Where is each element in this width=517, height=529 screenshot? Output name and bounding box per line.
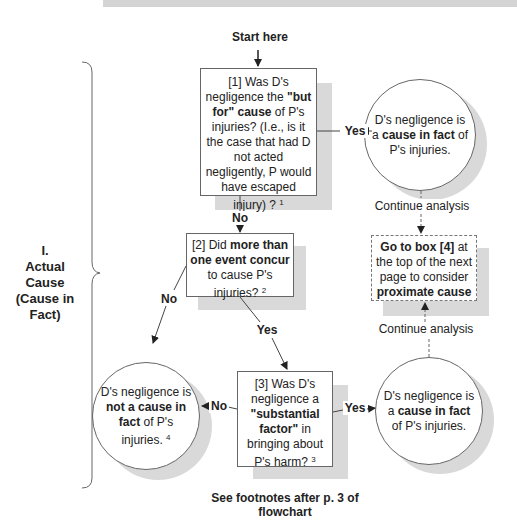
- box4-bold-2: proximate cause: [377, 285, 472, 299]
- circle-right-text-2: of P's injuries.: [392, 419, 466, 433]
- section-label: I. Actual Cause (Cause in Fact): [8, 243, 82, 323]
- footer-line-2: flowchart: [200, 505, 370, 519]
- edge-label-no-box2: No: [158, 292, 180, 306]
- edge-label-continue-bottom: Continue analysis: [377, 322, 475, 336]
- outcome-not-cause-in-fact: D's negligence is not a cause in fact of…: [92, 362, 200, 470]
- section-title-4: Fact): [8, 307, 82, 323]
- edge-label-continue-top: Continue analysis: [373, 199, 471, 213]
- start-label: Start here: [220, 30, 300, 44]
- box2-footnote: 2: [262, 286, 266, 295]
- top-banner-bar: [103, 0, 517, 7]
- box1-footnote: 1: [279, 198, 283, 207]
- section-title-3: (Cause in: [8, 291, 82, 307]
- circle-left-text: D's negligence is: [101, 385, 191, 399]
- section-title-2: Cause: [8, 275, 82, 291]
- edge-label-no-box3: No: [209, 399, 229, 413]
- box1-text-2: of P's injuries? (I.e., is it the case t…: [206, 105, 312, 212]
- box4-bold: Go to box [4]: [380, 240, 454, 254]
- edge-label-yes-box2: Yes: [254, 323, 280, 337]
- outcome-cause-in-fact-top: D's negligence is a cause in fact of P's…: [364, 79, 476, 191]
- circle-left-footnote: 4: [166, 433, 170, 442]
- box2-text-2: to cause P's injuries?: [208, 268, 273, 300]
- box3-footnote: 3: [311, 455, 315, 464]
- box2-question: [2] Did more than one event concur to ca…: [186, 233, 294, 297]
- goto-box4-note: Go to box [4] at the top of the next pag…: [371, 235, 477, 301]
- edge-label-yes-box1: Yes: [342, 124, 368, 138]
- footer-line-1: See footnotes after p. 3 of: [200, 491, 370, 505]
- section-number: I.: [8, 243, 82, 259]
- box1-question: [1] Was D's negligence the "but for" cau…: [200, 68, 317, 196]
- edge-label-no-box1: No: [229, 211, 251, 225]
- circle-right-bold: cause in fact: [398, 404, 471, 418]
- box2-text: [2] Did: [192, 238, 230, 252]
- section-title-1: Actual: [8, 259, 82, 275]
- edge-label-yes-box3: Yes: [343, 401, 367, 415]
- outcome-cause-in-fact-bottom: D's negligence is a cause in fact of P's…: [375, 357, 483, 465]
- box3-text: [3] Was D's negligence a: [251, 377, 319, 406]
- footnote-reference: See footnotes after p. 3 of flowchart: [200, 491, 370, 519]
- circle-top-bold: cause in fact: [382, 128, 455, 142]
- box1-text: [1] Was D's negligence the: [206, 75, 289, 104]
- box3-question: [3] Was D's negligence a "substantial fa…: [237, 371, 333, 467]
